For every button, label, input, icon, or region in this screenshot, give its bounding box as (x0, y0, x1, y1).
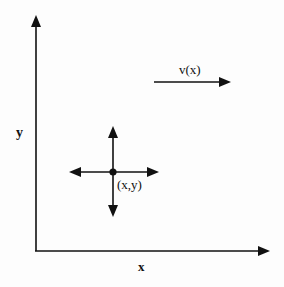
coordinate-diagram: y x v(x) (x,y) (0, 0, 284, 287)
velocity-arrowhead-icon (219, 77, 231, 87)
x-axis-arrowhead-icon (258, 246, 270, 256)
y-axis-label: y (16, 125, 23, 140)
arrow-right-icon (147, 167, 159, 177)
arrow-down-icon (108, 205, 118, 217)
velocity-label: v(x) (179, 62, 201, 77)
point-label: (x,y) (117, 177, 142, 192)
arrow-up-icon (108, 126, 118, 138)
point-dot-icon (109, 168, 116, 175)
arrow-left-icon (69, 167, 81, 177)
x-axis-label: x (138, 259, 145, 274)
y-axis-arrowhead-icon (31, 15, 41, 27)
